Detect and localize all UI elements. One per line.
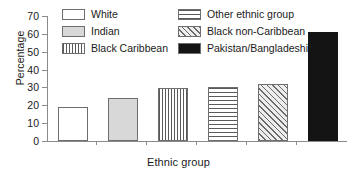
- bar-indian[interactable]: [108, 98, 138, 141]
- legend-swatch-black-caribbean-icon: [62, 43, 85, 54]
- legend-item-white[interactable]: White: [62, 6, 178, 23]
- legend-swatch-other-ethnic-group-icon: [178, 9, 201, 20]
- y-tick-label-10: 10: [27, 117, 39, 129]
- y-tick-label-60: 60: [27, 28, 39, 40]
- bar-chart: Percentage 0 10 20 30 40 50: [0, 0, 357, 177]
- x-axis-line: [47, 141, 347, 142]
- legend-item-pakistan-bangladeshi[interactable]: Pakistan/Bangladeshi: [178, 40, 350, 57]
- y-tick-label-0: 0: [33, 135, 39, 147]
- x-tick-1: [96, 141, 97, 145]
- bar-white[interactable]: [58, 107, 88, 141]
- legend-label-pakistan-bangladeshi: Pakistan/Bangladeshi: [207, 43, 308, 54]
- x-tick-2: [146, 141, 147, 145]
- y-tick-label-30: 30: [27, 81, 39, 93]
- legend-item-other-ethnic-group[interactable]: Other ethnic group: [178, 6, 350, 23]
- legend-item-indian[interactable]: Indian: [62, 23, 178, 40]
- y-tick-label-40: 40: [27, 64, 39, 76]
- legend-swatch-white-icon: [62, 9, 85, 20]
- y-tick-label-20: 20: [27, 99, 39, 111]
- bar-black-caribbean[interactable]: [158, 88, 188, 141]
- legend-label-indian: Indian: [91, 26, 120, 37]
- x-tick-4: [246, 141, 247, 145]
- bar-black-non-caribbean[interactable]: [258, 84, 288, 141]
- legend: White Other ethnic group Indian Black no…: [62, 6, 350, 57]
- y-axis-title: Percentage: [14, 12, 26, 104]
- x-tick-3: [196, 141, 197, 145]
- legend-label-black-caribbean: Black Caribbean: [91, 43, 168, 54]
- legend-item-black-non-caribbean[interactable]: Black non-Caribbean: [178, 23, 350, 40]
- x-axis-title: Ethnic group: [0, 156, 357, 168]
- legend-item-black-caribbean[interactable]: Black Caribbean: [62, 40, 178, 57]
- x-tick-5: [296, 141, 297, 145]
- legend-swatch-indian-icon: [62, 26, 85, 37]
- legend-swatch-pakistan-bangladeshi-icon: [178, 43, 201, 54]
- legend-label-other-ethnic-group: Other ethnic group: [207, 9, 294, 20]
- legend-label-white: White: [91, 9, 118, 20]
- y-tick-label-50: 50: [27, 46, 39, 58]
- legend-swatch-black-non-caribbean-icon: [178, 26, 201, 37]
- legend-label-black-non-caribbean: Black non-Caribbean: [207, 26, 305, 37]
- y-tick-label-70: 70: [27, 10, 39, 22]
- bar-other-ethnic-group[interactable]: [208, 87, 238, 141]
